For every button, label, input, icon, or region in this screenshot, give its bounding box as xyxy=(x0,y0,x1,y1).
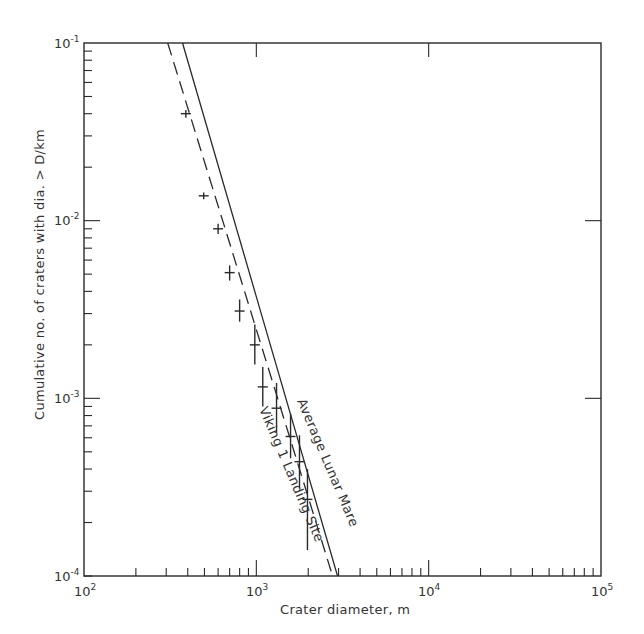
y-tick-label-0.01: 10-2 xyxy=(54,211,80,228)
y-tick-labels: 10-1 10-2 10-3 10-4 xyxy=(54,34,80,584)
data-point xyxy=(235,299,245,321)
y-tick-label-0.1: 10-1 xyxy=(54,34,80,51)
x-tick-labels: 102 103 104 105 xyxy=(74,582,613,599)
data-point xyxy=(199,193,209,200)
x-tick-label-100: 102 xyxy=(74,582,96,599)
x-tick-label-100000: 105 xyxy=(591,582,613,599)
x-tick-label-10000: 104 xyxy=(418,582,441,599)
x-tick-label-1000: 103 xyxy=(246,582,268,599)
y-tick-label-0.0001: 10-4 xyxy=(54,567,80,584)
data-point xyxy=(258,367,268,406)
cropped-caption-residue xyxy=(60,628,644,634)
data-point xyxy=(213,224,223,234)
y-axis-title: Cumulative no. of craters with dia. > D/… xyxy=(32,129,47,420)
data-point xyxy=(250,325,260,365)
crater-size-frequency-chart: 102 103 104 105 10-1 10-2 10-3 10-4 Crat… xyxy=(0,0,644,634)
series-layer xyxy=(168,43,338,576)
average-lunar-mare-line xyxy=(183,43,338,576)
x-axis-title: Crater diameter, m xyxy=(280,602,410,617)
y-tick-label-0.001: 10-3 xyxy=(54,389,80,406)
data-point xyxy=(225,265,235,280)
